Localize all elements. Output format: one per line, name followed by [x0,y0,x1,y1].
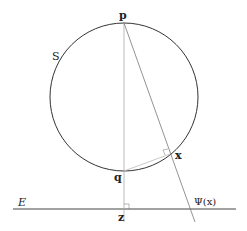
right-angle-marker-x [163,149,168,155]
stereographic-projection-diagram: p q x z S E Ψ(x) [0,0,247,231]
label-p: p [119,9,127,22]
label-plane: E [17,196,26,209]
label-sphere: S [52,50,60,63]
chord-q-x [124,154,170,171]
label-x: x [175,149,182,162]
projection-ray [124,23,195,222]
label-q: q [114,171,122,184]
label-projection: Ψ(x) [194,196,216,207]
right-angle-marker-z [124,204,129,209]
label-z: z [118,211,124,224]
